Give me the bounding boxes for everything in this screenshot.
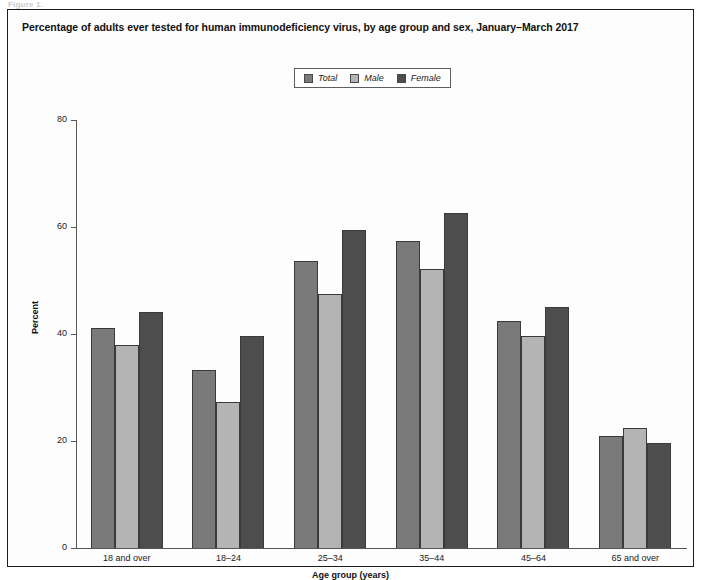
bar-female: [240, 336, 264, 548]
bar-group: [76, 120, 178, 548]
x-tick-label: 25–34: [318, 553, 343, 563]
bar-group: [483, 120, 585, 548]
scan-artifact-text: Figure 1.: [8, 0, 43, 9]
bar-group: [584, 120, 686, 548]
x-axis-tick-labels: 18 and over18–2425–3435–4445–6465 and ov…: [76, 553, 686, 569]
bar-total: [192, 370, 216, 548]
legend-swatch-icon: [304, 74, 313, 83]
y-axis-ticks: 020406080: [8, 120, 76, 548]
legend-item-female: Female: [397, 73, 441, 83]
bar-group: [279, 120, 381, 548]
bar-total: [91, 328, 115, 548]
bar-total: [396, 241, 420, 548]
bar-group: [381, 120, 483, 548]
y-tick-label: 80: [57, 114, 67, 124]
bar-male: [216, 402, 240, 548]
bar-male: [318, 294, 342, 548]
bars-layer: [76, 120, 686, 548]
legend-label: Male: [364, 73, 384, 83]
x-axis-title: Age group (years): [8, 570, 693, 580]
figure-title: Percentage of adults ever tested for hum…: [22, 21, 679, 33]
bar-male: [623, 428, 647, 548]
bar-total: [294, 261, 318, 548]
y-tick-label: 20: [57, 435, 67, 445]
legend-swatch-icon: [397, 74, 406, 83]
legend-label: Female: [411, 73, 441, 83]
chart-legend: TotalMaleFemale: [294, 68, 451, 88]
bar-group: [178, 120, 280, 548]
bar-female: [545, 307, 569, 548]
bar-total: [599, 436, 623, 548]
x-tick-label: 45–64: [521, 553, 546, 563]
bar-female: [647, 443, 671, 548]
y-axis-title: Percent: [30, 301, 40, 334]
bar-female: [444, 213, 468, 548]
bar-male: [521, 336, 545, 548]
y-tick-label: 40: [57, 328, 67, 338]
bar-male: [115, 345, 139, 548]
x-tick-label: 18 and over: [103, 553, 151, 563]
y-tick-label: 0: [62, 542, 67, 552]
legend-label: Total: [318, 73, 337, 83]
bar-male: [420, 269, 444, 548]
bar-female: [342, 230, 366, 548]
legend-item-male: Male: [350, 73, 384, 83]
bar-total: [497, 321, 521, 548]
bar-female: [139, 312, 163, 548]
legend-swatch-icon: [350, 74, 359, 83]
legend-item-total: Total: [304, 73, 337, 83]
x-tick-label: 18–24: [216, 553, 241, 563]
y-tick-label: 60: [57, 221, 67, 231]
x-tick-label: 65 and over: [611, 553, 659, 563]
x-tick-label: 35–44: [419, 553, 444, 563]
figure-frame: Percentage of adults ever tested for hum…: [7, 9, 694, 567]
